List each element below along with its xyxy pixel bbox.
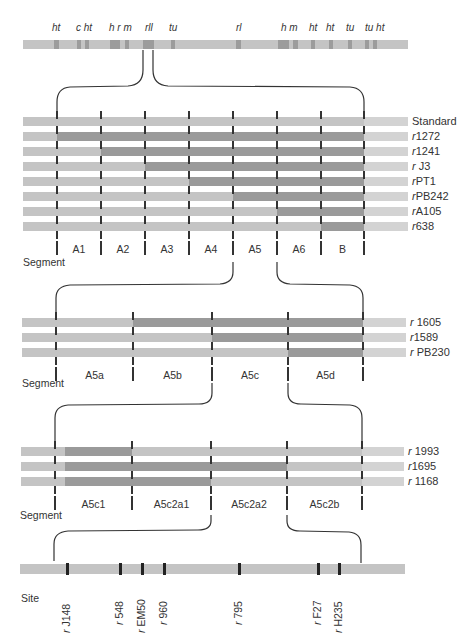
band-rll: [143, 40, 154, 49]
band: [85, 40, 89, 49]
gene-label: rll: [145, 22, 153, 33]
bracket-connectors: [0, 0, 468, 634]
band: [348, 40, 352, 49]
band: [77, 40, 81, 49]
band: [293, 40, 298, 49]
gene-label: ht: [309, 22, 317, 33]
gene-label: h r m: [109, 22, 132, 33]
gene-label: tu: [169, 22, 177, 33]
band: [365, 40, 369, 49]
band: [125, 40, 129, 49]
gene-label: ht: [326, 22, 334, 33]
gene-label: rl: [236, 22, 242, 33]
gene-label: c ht: [76, 22, 92, 33]
band: [373, 40, 377, 49]
band: [236, 40, 241, 49]
gene-label: ht: [52, 22, 60, 33]
gene-label: h m: [281, 22, 298, 33]
gene-label: tu ht: [365, 22, 384, 33]
gene-label: tu: [346, 22, 354, 33]
band: [54, 40, 59, 49]
chromosome-map: htc hth r mrllturlh mhthttutu ht: [0, 0, 468, 52]
band: [329, 40, 333, 49]
band: [311, 40, 315, 49]
band: [171, 40, 175, 49]
band: [110, 40, 120, 49]
band: [278, 40, 289, 49]
